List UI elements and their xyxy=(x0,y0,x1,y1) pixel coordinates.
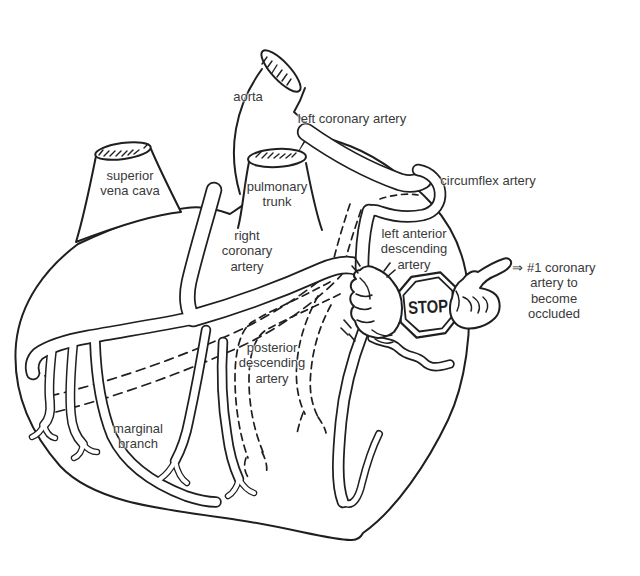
heart-diagram: STOP aorta left coronary artery sup xyxy=(0,0,640,576)
heart-illustration: STOP xyxy=(0,0,640,576)
stop-sign-text: STOP xyxy=(408,296,449,318)
